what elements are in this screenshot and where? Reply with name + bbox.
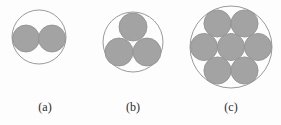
panel-label: (b) [126, 100, 140, 114]
packing-panel-a: (a) [12, 10, 66, 114]
circle-packing-figure: (a)(b)(c) [0, 0, 281, 125]
packed-circle [217, 33, 244, 60]
panels-layer: (a)(b)(c) [12, 6, 272, 114]
packed-circle [190, 33, 217, 60]
packed-circle [204, 10, 231, 37]
packed-circle [39, 25, 66, 52]
packed-circle [13, 25, 40, 52]
packed-circle [204, 57, 231, 84]
packed-circle [133, 38, 161, 66]
packing-panel-b: (b) [103, 12, 163, 114]
packed-circle [231, 57, 258, 84]
packed-circle [231, 10, 258, 37]
packed-circle [119, 13, 147, 41]
packed-circle [244, 33, 271, 60]
packing-diagram-canvas: (a)(b)(c) [0, 0, 281, 125]
panel-label: (a) [38, 100, 51, 114]
packing-panel-c: (c) [190, 6, 272, 114]
packed-circle [105, 38, 133, 66]
panel-label: (c) [224, 100, 237, 114]
